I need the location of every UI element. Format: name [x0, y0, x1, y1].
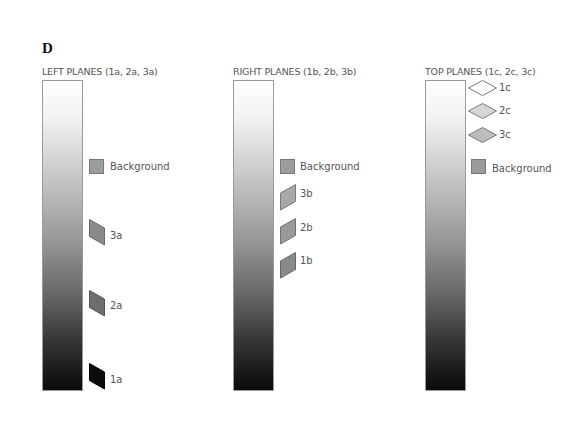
right-gradient-bar [233, 80, 274, 391]
top-background-label: Background [492, 163, 552, 174]
right-plane-3b-icon [280, 184, 296, 211]
top-plane-2c-icon [468, 103, 497, 119]
left-plane-2a-label: 2a [110, 300, 123, 311]
top-planes-title: TOP PLANES (1c, 2c, 3c) [425, 66, 536, 77]
top-plane-1c-icon [468, 80, 497, 96]
right-plane-2b-label: 2b [300, 222, 313, 233]
left-background-swatch [89, 159, 104, 174]
left-plane-1a-icon [89, 363, 105, 390]
top-background-swatch [471, 159, 486, 174]
left-plane-2a-icon [89, 290, 105, 317]
left-planes-title: LEFT PLANES (1a, 2a, 3a) [42, 66, 158, 77]
top-plane-1c-label: 1c [499, 82, 511, 93]
right-plane-3b-label: 3b [300, 188, 313, 199]
top-plane-3c-icon [468, 127, 497, 143]
top-gradient-bar [425, 80, 466, 391]
top-plane-3c-label: 3c [499, 129, 511, 140]
top-plane-2c-label: 2c [499, 105, 511, 116]
panel-label: D [42, 40, 53, 57]
right-plane-1b-icon [280, 252, 296, 279]
left-plane-3a-icon [89, 219, 105, 246]
left-plane-1a-label: 1a [110, 374, 123, 385]
left-background-label: Background [110, 161, 170, 172]
right-background-label: Background [300, 161, 360, 172]
right-plane-1b-label: 1b [300, 255, 313, 266]
right-planes-title: RIGHT PLANES (1b, 2b, 3b) [233, 66, 356, 77]
right-plane-2b-icon [280, 218, 296, 245]
right-background-swatch [280, 159, 295, 174]
left-plane-3a-label: 3a [110, 230, 123, 241]
left-gradient-bar [42, 80, 83, 391]
